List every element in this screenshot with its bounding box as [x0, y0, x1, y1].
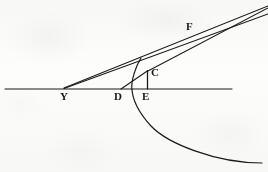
ray-from-y-through-c [64, 14, 268, 89]
chord-c-to-f [147, 8, 268, 72]
point-label-c: C [151, 67, 159, 78]
point-label-e: E [142, 91, 149, 102]
diagram-canvas [0, 0, 268, 172]
ray-from-y-through-f [64, 6, 268, 88]
geometric-figure: Y D E C F [0, 0, 268, 172]
point-label-f: F [186, 21, 193, 32]
point-label-y: Y [60, 91, 68, 102]
point-label-d: D [114, 91, 122, 102]
